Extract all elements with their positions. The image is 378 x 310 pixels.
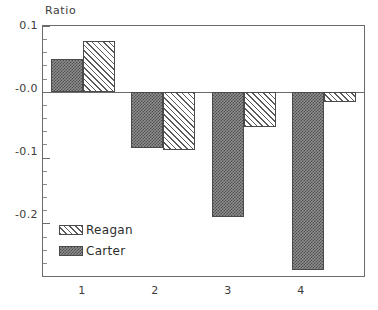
bar-reagan-2 [163,92,195,150]
y-tick-minor [43,118,47,119]
legend-swatch-reagan-icon [59,225,83,235]
y-tick-minor [43,144,47,145]
legend-item-reagan: Reagan [59,221,133,238]
legend-label-carter: Carter [86,244,126,258]
y-tick-minor [43,263,47,264]
bar-carter-1 [51,59,83,92]
y-tick-major [43,158,50,159]
y-axis-label: Ratio [45,4,76,17]
y-tick-minor [43,39,47,40]
y-tick-minor [43,52,47,53]
bar-reagan-3 [244,92,276,127]
bar-carter-4 [292,92,324,270]
x-tick-label-1: 2 [135,284,175,297]
y-tick-minor [43,210,47,211]
y-tick-major [43,223,50,224]
y-tick-major [43,26,50,27]
y-tick-minor [43,105,47,106]
y-tick-label-1: -0.0 [2,82,38,95]
bar-carter-2 [131,92,163,148]
y-tick-major [43,92,50,93]
y-tick-label-3: -0.2 [2,208,38,221]
y-tick-minor [43,79,47,80]
y-tick-minor [43,250,47,251]
y-tick-label-2: -0.1 [2,145,38,158]
y-tick-minor [43,237,47,238]
y-tick-label-0: 0.1 [2,19,38,32]
y-tick-minor [43,131,47,132]
x-tick-label-3: 4 [281,284,321,297]
y-tick-minor [43,65,47,66]
x-tick-label-0: 1 [62,284,102,297]
x-tick-label-2: 3 [208,284,248,297]
bar-reagan-1 [83,41,115,92]
legend-swatch-carter-icon [59,246,83,256]
chart-legend: Reagan Carter [59,221,133,263]
bar-reagan-4 [324,92,356,102]
bar-chart: Ratio 0.1 -0.0 -0.1 -0.2 1 2 3 4 Reagan … [0,0,378,310]
legend-label-reagan: Reagan [86,223,133,237]
bar-carter-3 [212,92,244,217]
legend-item-carter: Carter [59,242,133,259]
y-tick-minor [43,184,47,185]
y-tick-minor [43,171,47,172]
y-tick-minor [43,197,47,198]
